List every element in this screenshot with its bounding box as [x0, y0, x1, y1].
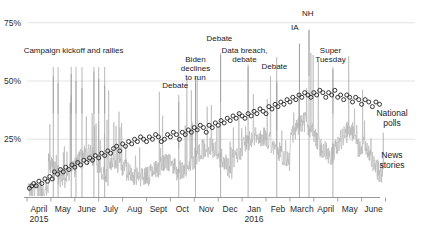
poll-data-point: [168, 135, 172, 139]
news-stories-line: [28, 53, 383, 196]
chart-svg: 25%50%75%Campaign kickoff and ralliesDeb…: [0, 0, 421, 235]
poll-data-point: [222, 121, 226, 125]
poll-data-point: [321, 91, 325, 95]
poll-data-point: [378, 102, 382, 106]
x-axis-tick-label: April: [30, 204, 47, 214]
y-axis-tick-label: 25%: [4, 134, 21, 144]
annotation-label-0: Campaign kickoff and rallies: [24, 46, 124, 55]
annotation-label-8: Super: [320, 46, 342, 55]
annotation-label-6: IA: [291, 23, 299, 32]
poll-data-point: [357, 98, 361, 102]
poll-data-point: [324, 95, 328, 99]
poll-data-point: [234, 116, 238, 120]
x-axis-tick-label: Feb: [271, 204, 286, 214]
legend-label-1: News: [381, 150, 402, 160]
annotation-label-7: NH: [302, 9, 314, 18]
poll-data-point: [288, 100, 292, 104]
annotation-label-2: Biden: [185, 55, 205, 64]
poll-data-point: [243, 116, 247, 120]
x-axis-tick-label: June: [364, 204, 383, 214]
poll-data-point: [210, 126, 214, 130]
x-axis-tick-label: April: [317, 204, 334, 214]
y-axis-tick-label: 75%: [4, 18, 21, 28]
annotation-label-5: Debate: [261, 62, 287, 71]
x-axis-tick-label: July: [103, 204, 119, 214]
legend-label-0-line2: polls: [383, 118, 400, 128]
annotation-label-4: Data breach,: [222, 46, 268, 55]
legend-label-1-line2: stories: [379, 160, 404, 170]
poll-data-point: [351, 100, 355, 104]
x-axis-tick-label: June: [78, 204, 97, 214]
poll-data-point: [333, 88, 337, 92]
chart-container: 25%50%75%Campaign kickoff and ralliesDeb…: [0, 0, 421, 235]
annotation-label-8: Tuesday: [315, 55, 345, 64]
legend-label-0: National: [376, 108, 407, 118]
x-axis: [24, 198, 386, 202]
x-axis-tick-label: March: [290, 204, 314, 214]
poll-data-point: [249, 114, 253, 118]
poll-data-point: [294, 98, 298, 102]
poll-data-point: [174, 133, 178, 137]
x-axis-year-label: 2016: [245, 214, 264, 224]
x-axis-tick-label: Nov: [199, 204, 215, 214]
poll-data-point: [342, 98, 346, 102]
y-axis-tick-label: 50%: [4, 76, 21, 86]
x-axis-tick-label: Sept: [150, 204, 168, 214]
x-axis-tick-label: May: [342, 204, 359, 214]
annotation-label-4: debate: [232, 55, 257, 64]
poll-data-point: [216, 123, 220, 127]
x-axis-tick-label: Oct: [176, 204, 190, 214]
annotation-label-3: Debate: [207, 34, 233, 43]
poll-data-point: [115, 144, 119, 148]
poll-data-point: [228, 119, 232, 123]
x-axis-tick-label: May: [55, 204, 72, 214]
poll-data-point: [130, 142, 134, 146]
poll-data-point: [145, 140, 149, 144]
annotation-label-2: declines: [181, 64, 210, 73]
x-axis-tick-label: Aug: [127, 204, 142, 214]
x-axis-tick-label: Jan: [247, 204, 261, 214]
poll-data-point: [282, 102, 286, 106]
poll-data-point: [255, 112, 259, 116]
poll-data-point: [367, 100, 371, 104]
poll-data-point: [135, 140, 139, 144]
x-axis-year-label: 2015: [29, 214, 48, 224]
poll-data-point: [201, 126, 205, 130]
poll-data-point: [300, 95, 304, 99]
poll-data-point: [370, 105, 374, 109]
poll-data-point: [339, 93, 343, 97]
x-axis-tick-label: Dec: [223, 204, 239, 214]
annotation-label-2: to run: [185, 73, 205, 82]
